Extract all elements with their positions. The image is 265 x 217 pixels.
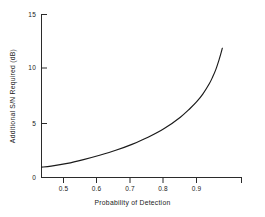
data-series-line xyxy=(42,48,223,167)
y-axis-ticks xyxy=(42,15,48,124)
chart-figure: 15 10 5 0 0.5 0.6 0.7 0.8 0.9 Probabilit… xyxy=(0,0,265,217)
y-axis-title: Additional S/N Required (dB) xyxy=(10,31,17,161)
x-tick-label-0-5: 0.5 xyxy=(59,186,69,193)
y-tick-label-5: 5 xyxy=(22,121,36,128)
x-axis-ticks xyxy=(64,178,242,184)
x-tick-label-0-8: 0.8 xyxy=(158,186,168,193)
y-tick-label-10: 10 xyxy=(22,65,36,72)
y-tick-label-0: 0 xyxy=(22,175,36,182)
x-tick-label-0-6: 0.6 xyxy=(92,186,102,193)
x-tick-label-0-9: 0.9 xyxy=(192,186,202,193)
x-tick-label-0-7: 0.7 xyxy=(125,186,135,193)
y-tick-label-15: 15 xyxy=(22,12,36,19)
x-axis-title: Probability of Detection xyxy=(0,200,265,207)
